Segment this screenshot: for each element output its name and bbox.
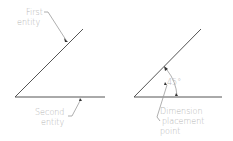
angle-value-label: 45° [167,78,181,87]
second-entity-label-line2: entity [41,118,64,127]
second-entity-pick-arrow-icon [79,98,82,101]
first-entity-label-line1: First [26,8,43,17]
placement-label-line2: placement [162,117,204,126]
first-entity-pick-arrow-icon [64,38,68,42]
right-diagram: 45° Dimension placement point [134,29,222,136]
second-entity-label-line1: Second [35,108,64,117]
first-entity-leader [44,12,66,40]
left-diagram: First entity Second entity [15,8,105,127]
first-entity-line [15,29,83,97]
placement-label-line3: point [160,127,180,136]
second-entity-leader [68,99,81,116]
angular-dimension-diagram: First entity Second entity 45° Dimension… [0,0,233,141]
placement-label-line1: Dimension [160,107,203,116]
first-entity-label-line2: entity [17,18,40,27]
